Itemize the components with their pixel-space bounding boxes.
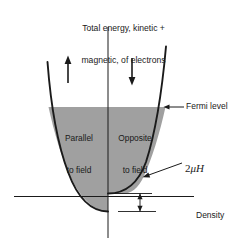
figure-title-line-1: Total energy, kinetic +	[0, 23, 247, 34]
label-parallel-line-2: to field	[55, 165, 103, 176]
label-opposite-line-1: Opposite	[110, 133, 160, 144]
label-density-line-1: Density	[196, 210, 228, 221]
figure-title: Total energy, kinetic + magnetic, of ele…	[0, 2, 247, 86]
label-band-splitting: 2μH	[185, 163, 204, 173]
label-parallel-to-field: Parallel to field	[55, 112, 103, 196]
label-fermi-level: Fermi level	[186, 101, 228, 111]
fermi-level-leader	[164, 104, 185, 109]
label-band-splitting-symbol: μH	[191, 162, 204, 174]
label-parallel-line-1: Parallel	[55, 133, 103, 144]
label-opposite-to-field: Opposite to field	[110, 112, 160, 196]
figure-title-line-2: magnetic, of electrons	[0, 55, 247, 66]
pauli-paramagnetism-diagram: Total energy, kinetic + magnetic, of ele…	[0, 0, 247, 238]
label-density-of-states: Density of states	[196, 189, 228, 238]
label-opposite-line-2: to field	[110, 165, 160, 176]
